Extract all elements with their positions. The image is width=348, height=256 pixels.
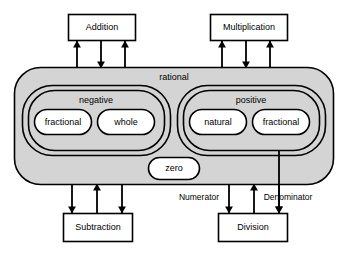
set-zero-label: zero: [165, 163, 183, 173]
set-negative-label: negative: [79, 95, 113, 105]
set-negative-whole-label: whole: [113, 117, 138, 127]
diagram-svg: rational negative fractional whole posit…: [0, 0, 348, 256]
operation-subtraction-label: Subtraction: [75, 222, 121, 232]
set-negative[interactable]: negative fractional whole: [23, 86, 171, 156]
set-rational-label: rational: [159, 72, 189, 82]
diagram-canvas: rational negative fractional whole posit…: [0, 0, 348, 256]
edge-label-numerator: Numerator: [179, 192, 219, 202]
set-positive-fractional-label: fractional: [263, 117, 300, 127]
operation-addition-label: Addition: [86, 22, 119, 32]
edge-label-denominator: Denominator: [264, 192, 313, 202]
set-positive[interactable]: positive natural fractional: [178, 86, 326, 156]
arrows-subtraction: [72, 184, 122, 213]
set-positive-label: positive: [236, 95, 267, 105]
set-zero[interactable]: zero: [149, 158, 200, 180]
operation-multiplication-label: Multiplication: [223, 22, 275, 32]
operation-addition[interactable]: Addition: [69, 15, 136, 41]
operation-division[interactable]: Division: [219, 214, 288, 242]
operation-division-label: Division: [237, 222, 269, 232]
set-positive-natural-label: natural: [204, 117, 232, 127]
operation-multiplication[interactable]: Multiplication: [211, 15, 288, 41]
arrows-multiplication: [222, 41, 270, 68]
operation-subtraction[interactable]: Subtraction: [64, 214, 133, 242]
set-negative-fractional-label: fractional: [45, 117, 82, 127]
arrows-addition: [77, 41, 125, 68]
